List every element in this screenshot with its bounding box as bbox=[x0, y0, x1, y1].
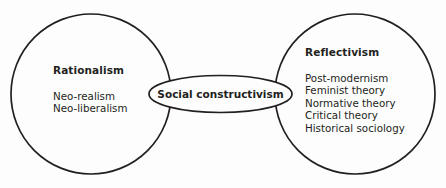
list-item: Neo-realism bbox=[53, 90, 128, 102]
list-item: Normative theory bbox=[305, 97, 405, 109]
right-circle-heading: Reflectivism bbox=[305, 46, 379, 58]
list-item: Neo-liberalism bbox=[53, 102, 128, 114]
list-item: Post-modernism bbox=[305, 72, 405, 84]
right-circle-item-list: Post-modernism Feminist theory Normative… bbox=[305, 72, 405, 134]
venn-diagram: Rationalism Neo-realism Neo-liberalism S… bbox=[0, 0, 446, 188]
left-circle-heading: Rationalism bbox=[53, 64, 124, 76]
label-layer: Rationalism Neo-realism Neo-liberalism S… bbox=[0, 0, 446, 188]
list-item: Critical theory bbox=[305, 109, 405, 121]
list-item: Feminist theory bbox=[305, 84, 405, 96]
left-circle-item-list: Neo-realism Neo-liberalism bbox=[53, 90, 128, 115]
list-item: Historical sociology bbox=[305, 122, 405, 134]
center-ellipse-label: Social constructivism bbox=[149, 76, 292, 112]
